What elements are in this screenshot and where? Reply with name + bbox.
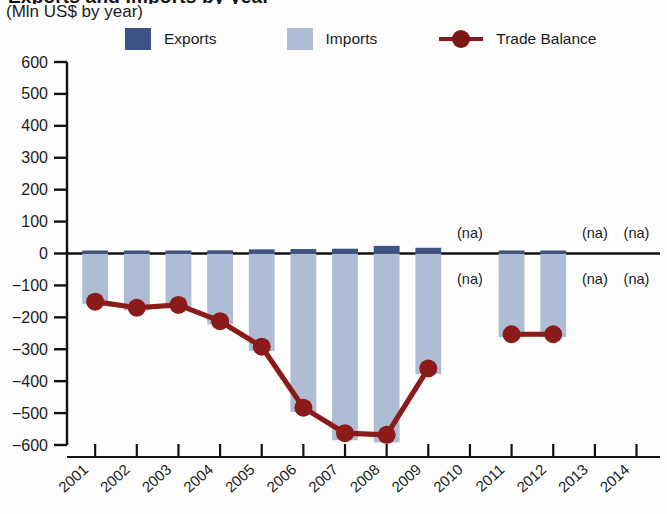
trade-balance-point[interactable] (503, 325, 521, 343)
export-bar[interactable] (166, 251, 192, 254)
x-tick-label: 2009 (388, 461, 424, 496)
x-tick-label: 2011 (472, 461, 507, 495)
import-bar[interactable] (290, 254, 316, 413)
x-tick-label: 2007 (305, 461, 341, 496)
na-label-above: (na) (582, 225, 608, 241)
import-bar[interactable] (249, 254, 275, 351)
y-tick-label: 300 (21, 149, 48, 166)
x-tick-label: 2002 (97, 461, 133, 496)
import-bar[interactable] (540, 254, 566, 338)
na-label-above: (na) (457, 225, 483, 241)
x-tick-label: 2006 (263, 461, 299, 496)
trade-balance-point[interactable] (128, 299, 146, 317)
trade-balance-point[interactable] (253, 338, 271, 356)
x-tick-label: 2004 (180, 461, 216, 496)
import-bar[interactable] (374, 254, 400, 443)
x-tick-label: 2008 (346, 461, 382, 496)
y-tick-label: 600 (21, 54, 48, 71)
export-bar[interactable] (499, 251, 525, 254)
import-bar[interactable] (415, 254, 441, 375)
y-tick-label: 500 (21, 85, 48, 102)
x-tick-label: 2001 (55, 461, 91, 496)
y-tick-label: 200 (21, 181, 48, 198)
export-bar[interactable] (82, 251, 108, 254)
export-bar[interactable] (415, 248, 441, 254)
export-bar[interactable] (249, 249, 275, 253)
trade-balance-chart: Exports and Imports by year (Mln US$ by … (0, 0, 667, 514)
y-tick-label: 400 (21, 117, 48, 134)
na-label-below: (na) (582, 271, 608, 287)
trade-balance-point[interactable] (86, 293, 104, 311)
export-bar[interactable] (124, 251, 150, 254)
trade-balance-point[interactable] (211, 312, 229, 330)
chart-canvas: 6005004003002001000−100−200−300−400−500−… (0, 0, 667, 514)
x-tick-label: 2010 (430, 461, 466, 496)
trade-balance-point[interactable] (294, 399, 312, 417)
y-tick-label: −300 (12, 341, 48, 358)
trade-balance-point[interactable] (378, 426, 396, 444)
export-bar[interactable] (332, 249, 358, 254)
trade-balance-point[interactable] (419, 359, 437, 377)
export-bar[interactable] (540, 251, 566, 254)
na-label-above: (na) (624, 225, 650, 241)
export-bar[interactable] (290, 249, 316, 253)
y-tick-label: 100 (21, 213, 48, 230)
y-tick-label: −500 (12, 405, 48, 422)
y-tick-label: −600 (12, 437, 48, 454)
na-label-below: (na) (457, 271, 483, 287)
import-bar[interactable] (332, 254, 358, 441)
x-tick-label: 2012 (513, 461, 549, 496)
y-tick-label: −100 (12, 277, 48, 294)
x-tick-label: 2014 (596, 461, 632, 496)
x-tick-label: 2005 (222, 461, 258, 496)
export-bar[interactable] (374, 246, 400, 254)
trade-balance-point[interactable] (544, 325, 562, 343)
export-bar[interactable] (207, 250, 233, 253)
x-tick-label: 2013 (555, 461, 591, 496)
y-tick-label: −400 (12, 373, 48, 390)
x-tick-label: 2003 (138, 461, 174, 496)
trade-balance-point[interactable] (169, 296, 187, 314)
import-bar[interactable] (499, 254, 525, 338)
y-tick-label: 0 (39, 245, 48, 262)
trade-balance-point[interactable] (336, 424, 354, 442)
plot-area: 6005004003002001000−100−200−300−400−500−… (0, 0, 667, 514)
y-tick-label: −200 (12, 309, 48, 326)
na-label-below: (na) (624, 271, 650, 287)
